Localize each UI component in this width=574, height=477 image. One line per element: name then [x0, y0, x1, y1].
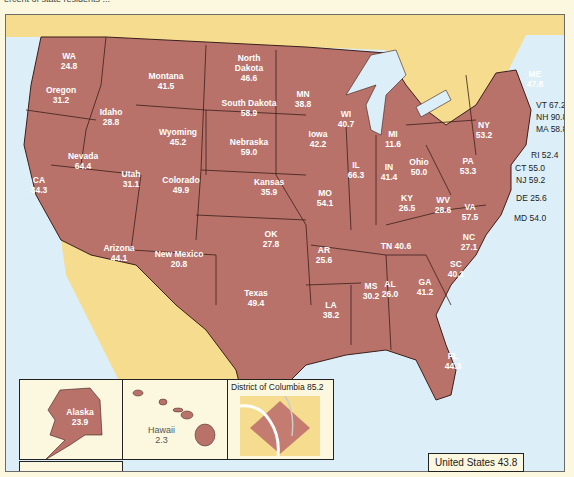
state-label-nd: North Dakota46.6 — [224, 53, 274, 83]
state-label-va: VA57.5 — [462, 202, 479, 222]
state-label-il: IL66.3 — [348, 160, 365, 180]
state-label-ok: OK27.8 — [263, 229, 280, 249]
state-label-pa: PA53.3 — [460, 156, 477, 176]
callout-ri: RI 52.4 — [531, 150, 558, 160]
inset-alaska — [19, 461, 123, 472]
state-label-wi: WI40.7 — [338, 109, 355, 129]
state-label-co: Colorado49.9 — [162, 175, 199, 195]
state-label-mt: Montana41.5 — [149, 71, 184, 91]
state-label-mi: MI11.6 — [385, 129, 401, 149]
state-label-al: AL26.0 — [382, 279, 399, 299]
callout-ma: MA 58.8 — [536, 124, 565, 134]
state-label-id: Idaho28.8 — [100, 107, 123, 127]
hawaii-label: Hawaii2.3 — [148, 425, 175, 445]
state-label-ia: Iowa42.2 — [309, 129, 328, 149]
state-label-me: ME47.8 — [527, 69, 544, 89]
state-label-wy: Wyoming45.2 — [159, 127, 197, 147]
callout-vt: VT 67.2 — [536, 100, 565, 110]
state-label-ms: MS30.2 — [363, 281, 380, 301]
dc-map — [240, 396, 320, 456]
state-label-nm: New Mexico20.8 — [154, 249, 204, 269]
dc-title: District of Columbia 85.2 — [231, 382, 324, 392]
state-label-tx: Texas49.4 — [244, 288, 267, 308]
state-label-la: LA38.2 — [323, 300, 340, 320]
state-label-az: Arizona44.1 — [103, 243, 134, 263]
state-label-ca: CA34.3 — [31, 175, 48, 195]
state-label-ks: Kansas35.9 — [254, 177, 284, 197]
callout-md: MD 54.0 — [514, 213, 546, 223]
state-label-nc: NC27.1 — [461, 232, 478, 252]
state-label-ar: AR25.6 — [316, 245, 333, 265]
us-total-box: United States 43.8 — [428, 453, 524, 472]
alaska-label: Alaska23.9 — [66, 407, 93, 427]
state-label-ny: NY53.2 — [476, 120, 493, 140]
inset-hawaii: Hawaii2.3 — [122, 379, 228, 460]
state-label-ne: Nebraska59.0 — [230, 137, 268, 157]
state-label-mn: MN38.8 — [295, 89, 312, 109]
state-label-wv: WV28.6 — [435, 195, 452, 215]
cut-off-caption: ercent of state residents ... — [4, 0, 110, 4]
hawaii-shape — [123, 380, 227, 459]
state-label-sd: South Dakota58.9 — [222, 98, 277, 118]
state-label-wa: WA24.8 — [61, 51, 78, 71]
callout-nj: NJ 59.2 — [516, 175, 545, 185]
inset-alaska: Alaska23.9 — [19, 379, 123, 460]
state-label-or: Oregon31.2 — [46, 85, 76, 105]
state-label-nv: Nevada64.4 — [68, 151, 98, 171]
state-label-mo: MO54.1 — [317, 188, 334, 208]
state-label-ky: KY26.5 — [399, 193, 416, 213]
state-label-fl: FL44.3 — [445, 351, 462, 371]
state-label-ga: GA41.2 — [417, 277, 434, 297]
state-label-ut: Utah31.1 — [122, 169, 141, 189]
state-label-tn: TN 40.6 — [381, 241, 411, 251]
state-label-sc: SC40.1 — [448, 259, 465, 279]
callout-nh: NH 90.8 — [536, 112, 565, 122]
inset-dc: District of Columbia 85.2 — [227, 379, 334, 460]
state-label-oh: Ohio50.0 — [409, 157, 428, 177]
state-label-in: IN41.4 — [381, 162, 398, 182]
callout-de: DE 25.6 — [516, 193, 547, 203]
callout-ct: CT 55.0 — [515, 163, 545, 173]
